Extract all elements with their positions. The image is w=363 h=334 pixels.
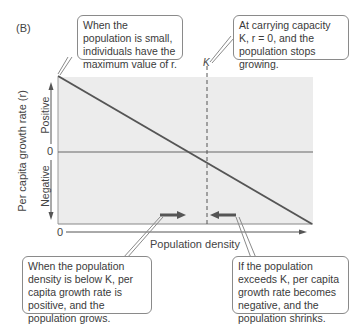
y-axis-label: Per capita growth rate (r) <box>16 86 28 216</box>
x-zero-label: 0 <box>57 226 63 238</box>
k-label: K <box>203 57 210 68</box>
panel-label: (B) <box>16 22 31 34</box>
y-zero-label: 0 <box>47 145 53 157</box>
callout-max-r: When the population is small, individual… <box>77 15 183 60</box>
y-negative-label: Negative <box>39 161 51 211</box>
callout-carrying-capacity: At carrying capacity K, r = 0, and the p… <box>233 15 349 60</box>
arrow-down-icon <box>49 212 54 220</box>
arrow-up-icon <box>49 82 54 90</box>
y-positive-label: Positive <box>39 90 51 140</box>
callout-below-k: When the population density is below K, … <box>22 256 152 314</box>
arrow-right-icon <box>299 230 307 235</box>
x-axis-label: Population density <box>150 238 240 250</box>
callout-above-k: If the population exceeds K, per capita … <box>232 256 349 314</box>
